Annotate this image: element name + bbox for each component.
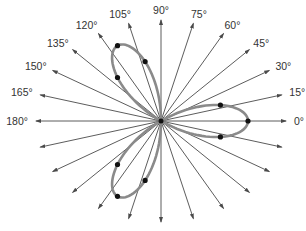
point-135-deg	[115, 75, 120, 80]
ray-150-deg	[53, 71, 161, 122]
ray-315-deg	[161, 121, 249, 192]
point--15-deg	[218, 134, 223, 139]
polar-rose-diagram: 0°15°30°45°60°75°90°105°120°135°150°165°…	[0, 0, 306, 231]
ray-105-deg	[129, 23, 161, 121]
label-165-deg: 165°	[11, 86, 33, 98]
ray-210-deg	[53, 121, 161, 172]
ray-45-deg	[161, 50, 249, 121]
point-0-deg	[245, 118, 250, 123]
label-45-deg: 45°	[253, 37, 269, 49]
label-75-deg: 75°	[191, 8, 207, 20]
ray-135-deg	[73, 50, 161, 121]
label-180-deg: 180°	[6, 115, 28, 127]
ray-15-deg	[161, 95, 282, 121]
label-15-deg: 15°	[289, 86, 305, 98]
point-255-deg	[142, 178, 147, 183]
point-120-deg	[115, 43, 120, 48]
label-30-deg: 30°	[275, 60, 291, 72]
label-60-deg: 60°	[225, 19, 241, 31]
point-15-deg	[218, 102, 223, 107]
ray-225-deg	[73, 121, 161, 192]
label-120-deg: 120°	[76, 19, 98, 31]
point-225-deg	[115, 162, 120, 167]
label-0-deg: 0°	[294, 115, 304, 127]
label-135-deg: 135°	[47, 37, 69, 49]
angle-labels: 0°15°30°45°60°75°90°105°120°135°150°165°…	[6, 4, 305, 127]
ray-285-deg	[161, 121, 193, 219]
ray-255-deg	[129, 121, 161, 219]
ray-75-deg	[161, 23, 193, 121]
label-150-deg: 150°	[25, 60, 47, 72]
ray-345-deg	[161, 121, 282, 147]
point-105-deg	[142, 59, 147, 64]
label-90-deg: 90°	[153, 4, 169, 16]
point-240-deg	[115, 194, 120, 199]
label-105-deg: 105°	[109, 8, 131, 20]
origin-point	[159, 119, 164, 124]
